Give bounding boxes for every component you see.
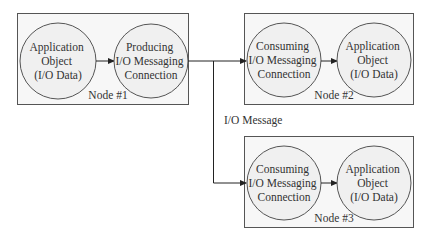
io-messaging-diagram: Application Object (I/O Data) Producing … xyxy=(0,0,434,239)
node-2-consuming-connection-label: Consuming I/O Messaging Connection xyxy=(249,40,320,80)
node-3: Consuming I/O Messaging Connection Appli… xyxy=(245,137,414,228)
io-message-label: I/O Message xyxy=(224,114,282,127)
node-1-label: Node #1 xyxy=(88,89,128,101)
node-2-label: Node #2 xyxy=(314,89,354,101)
node-3-consuming-connection-label: Consuming I/O Messaging Connection xyxy=(249,163,320,203)
node-3-label: Node #3 xyxy=(314,212,354,224)
node-2: Consuming I/O Messaging Connection Appli… xyxy=(245,14,414,105)
node-1: Application Object (I/O Data) Producing … xyxy=(18,14,189,105)
node-1-producing-connection-label: Producing I/O Messaging Connection xyxy=(116,41,187,81)
